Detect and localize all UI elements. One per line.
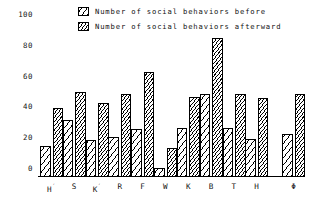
- bar-group: S: [63, 23, 86, 177]
- x-tick-label: B: [209, 182, 214, 191]
- bar-group: F: [131, 23, 154, 177]
- x-tick-label: Φ: [291, 182, 296, 191]
- bar-before: [282, 134, 293, 177]
- y-tick-label: 80: [23, 40, 33, 49]
- bar-before: [108, 137, 119, 177]
- x-tick-label: R: [117, 182, 122, 191]
- y-tick-label: 0: [28, 164, 33, 173]
- legend-swatch-before-icon: [78, 7, 89, 16]
- bar-afterward: [53, 108, 64, 177]
- bar-group: H: [245, 23, 268, 177]
- bar-group: T: [223, 23, 246, 177]
- bar-before: [200, 94, 211, 177]
- x-tick-label: T: [232, 182, 237, 191]
- bar-chart-figure: Number of social behaviors before Number…: [0, 0, 310, 203]
- x-tick-label: S: [72, 182, 77, 191]
- bar-afterward: [98, 103, 109, 177]
- bar-before: [63, 120, 74, 177]
- legend-label-before: Number of social behaviors before: [95, 7, 266, 16]
- bar-afterward: [189, 97, 200, 177]
- bar-before: [245, 139, 256, 178]
- bar-group: H′: [40, 23, 63, 177]
- y-tick-label: 60: [23, 71, 33, 80]
- bar-before: [177, 128, 188, 177]
- bar-before: [131, 129, 142, 177]
- y-tick-label: 100: [18, 10, 33, 19]
- y-tick-label: 40: [23, 102, 33, 111]
- bar-group: Φ: [282, 23, 305, 177]
- bar-afterward: [167, 148, 178, 177]
- x-tick-label: K′: [93, 182, 102, 194]
- x-tick-label: W: [163, 182, 168, 191]
- bar-before: [154, 168, 165, 177]
- bar-group: B: [200, 23, 223, 177]
- y-tick-label: 20: [23, 133, 33, 142]
- bar-group: K′: [86, 23, 109, 177]
- bar-group: W: [154, 23, 177, 177]
- x-tick-label: F: [140, 182, 145, 191]
- x-tick-label: H: [254, 182, 259, 191]
- bar-afterward: [235, 94, 246, 177]
- bar-afterward: [121, 94, 132, 177]
- bar-before: [86, 140, 97, 177]
- bar-afterward: [295, 94, 306, 177]
- bar-group: R: [108, 23, 131, 177]
- plot-area: 020406080100 H′SK′RFWKBTHΦ: [38, 23, 303, 177]
- bar-afterward: [212, 38, 223, 177]
- bar-group: K: [177, 23, 200, 177]
- x-tick-label: H′: [47, 182, 56, 194]
- x-tick-label: K: [186, 182, 191, 191]
- bar-afterward: [258, 98, 269, 177]
- bar-afterward: [144, 72, 155, 177]
- bar-afterward: [75, 92, 86, 177]
- bar-before: [223, 128, 234, 177]
- bar-before: [40, 146, 51, 177]
- legend-item-before: Number of social behaviors before: [78, 5, 304, 18]
